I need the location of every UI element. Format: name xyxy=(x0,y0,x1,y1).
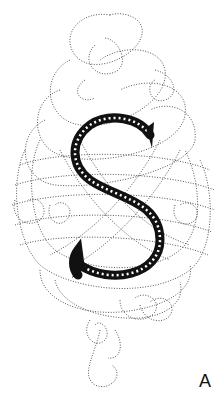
ornamental-illustration xyxy=(0,0,220,397)
dotted-flourishes xyxy=(12,14,215,387)
letter-s xyxy=(72,118,160,278)
panel-label: A xyxy=(199,372,211,390)
